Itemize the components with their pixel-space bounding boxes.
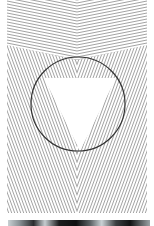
illusory-triangle [44,78,116,151]
line-pattern-graphic [0,0,154,226]
illusion-figure [0,0,154,226]
photo-strip [8,220,150,226]
